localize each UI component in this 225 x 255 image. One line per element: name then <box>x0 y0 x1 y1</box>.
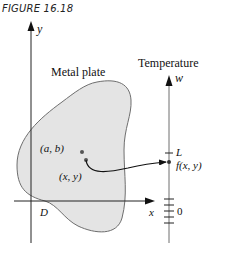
domain-label: D <box>39 206 48 218</box>
limit-label: L <box>175 146 182 158</box>
y-axis-arrow-icon <box>28 21 35 31</box>
point-fxy <box>167 160 171 164</box>
w-axis-label: w <box>175 71 183 85</box>
w-axis-arrow-icon <box>166 75 173 86</box>
x-axis-arrow-icon <box>145 198 155 205</box>
point-ab-label: (a, b) <box>40 142 64 155</box>
value-label: f(x, y) <box>176 159 202 172</box>
temperature-title: Temperature <box>138 56 198 70</box>
metal-plate-label: Metal plate <box>51 65 105 79</box>
point-ab <box>80 150 84 154</box>
diagram-canvas: y x Metal plate D (a, b) (x, y) Temperat… <box>0 0 225 255</box>
point-xy-label: (x, y) <box>59 170 82 183</box>
x-axis-label: x <box>148 206 154 218</box>
y-axis-label: y <box>36 22 43 36</box>
metal-plate-region <box>17 81 131 232</box>
zero-label: 0 <box>177 205 183 217</box>
